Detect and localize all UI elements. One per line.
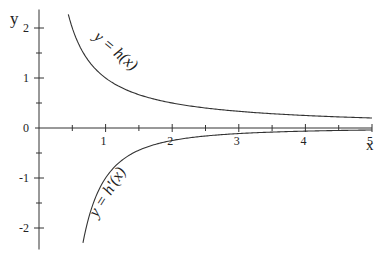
- y-tick-label: 0: [23, 121, 29, 135]
- y-tick-label: -1: [19, 171, 29, 185]
- x-tick-label: 1: [101, 134, 107, 148]
- annotation-h-prime: y = h'(x): [84, 164, 130, 222]
- y-tick-label: 2: [23, 21, 29, 35]
- x-tick-label: 4: [300, 134, 306, 148]
- curve-h-prime: [83, 130, 372, 243]
- plot-area: 12345-2-1012yxy = h(x)y = h'(x): [0, 0, 388, 255]
- x-axis-label: x: [366, 137, 374, 153]
- x-tick-label: 3: [234, 134, 240, 148]
- y-tick-label: 1: [23, 71, 29, 85]
- y-axis-label: y: [10, 9, 19, 28]
- annotation-h: y = h(x): [89, 26, 142, 74]
- curve-h: [68, 14, 372, 118]
- function-derivative-chart: 12345-2-1012yxy = h(x)y = h'(x): [0, 0, 388, 255]
- x-tick-label: 2: [167, 134, 173, 148]
- axes: [34, 10, 372, 250]
- y-tick-label: -2: [19, 221, 29, 235]
- labels: 12345-2-1012yxy = h(x)y = h'(x): [10, 9, 374, 235]
